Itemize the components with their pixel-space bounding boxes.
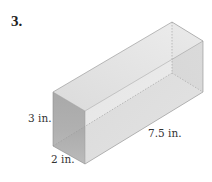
height-label: 3 in. (28, 112, 51, 124)
width-label: 2 in. (51, 153, 74, 165)
rectangular-prism-figure (0, 0, 212, 182)
length-label: 7.5 in. (148, 127, 182, 139)
